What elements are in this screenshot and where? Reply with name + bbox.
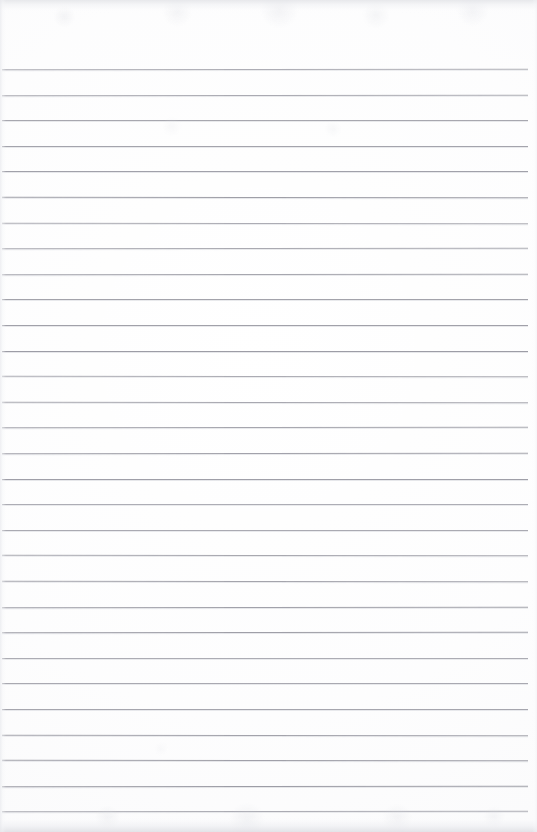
- rule-line: [2, 786, 528, 787]
- rule-line: [2, 402, 528, 403]
- rule-line: [2, 94, 528, 95]
- rule-line: [2, 351, 528, 352]
- rule-line: [2, 479, 528, 480]
- rule-line: [2, 325, 528, 326]
- rule-line: [2, 171, 528, 172]
- rule-line: [2, 658, 528, 659]
- rule-line: [2, 606, 528, 607]
- ruled-lines-group: [0, 0, 537, 832]
- rule-line: [2, 120, 528, 121]
- rule-line: [2, 427, 528, 428]
- rule-line: [2, 197, 528, 198]
- rule-line: [2, 274, 528, 275]
- rule-line: [2, 555, 528, 556]
- rule-line: [2, 530, 528, 531]
- rule-line: [2, 632, 528, 633]
- rule-line: [2, 69, 528, 70]
- rule-line: [2, 760, 528, 761]
- rule-line: [2, 581, 528, 582]
- rule-line: [2, 709, 528, 710]
- rule-line: [2, 376, 528, 377]
- rule-line: [2, 734, 528, 735]
- rule-line: [2, 453, 528, 454]
- rule-line: [2, 222, 528, 223]
- rule-line: [2, 299, 528, 300]
- rule-line: [2, 683, 528, 684]
- rule-line: [2, 504, 528, 505]
- scanned-page: [0, 0, 537, 832]
- rule-line: [2, 248, 528, 249]
- rule-line: [2, 146, 528, 147]
- rule-line: [2, 811, 528, 812]
